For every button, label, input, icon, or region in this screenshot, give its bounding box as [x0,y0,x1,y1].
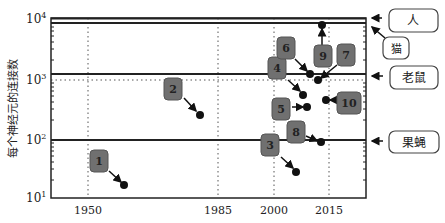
svg-text:老鼠: 老鼠 [402,71,426,85]
y-axis-label: 每个神经元的连接数 [6,59,20,158]
data-point [292,168,300,176]
point-labels: 1 2 3 4 5 6 7 8 9 10 [90,37,361,172]
svg-text:10: 10 [341,97,357,110]
point-label-8: 8 [287,121,305,143]
svg-text:101: 101 [26,190,46,205]
y-grid [51,80,366,140]
data-point [306,70,314,78]
svg-text:1985: 1985 [204,204,232,217]
data-point [318,21,326,29]
svg-text:2000: 2000 [260,204,288,217]
reference-annotations: 人 猫 老鼠 果蝇 [372,9,439,153]
data-points [120,21,330,189]
data-point [196,111,204,119]
point-label-5: 5 [272,98,290,120]
data-point [317,138,325,146]
svg-text:2015: 2015 [315,204,343,217]
point-label-7: 7 [337,44,355,66]
svg-text:104: 104 [26,11,46,26]
svg-text:1: 1 [95,155,103,168]
svg-text:人: 人 [407,14,419,28]
svg-text:6: 6 [282,42,290,55]
svg-text:9: 9 [319,50,327,63]
svg-text:猫: 猫 [391,43,402,56]
point-label-9: 9 [314,45,332,67]
data-point [120,181,128,189]
point-label-1: 1 [90,150,108,172]
chart: 101 102 103 104 1950 1985 2000 2015 每个神经… [0,0,445,223]
y-tick-labels: 101 102 103 104 [26,11,46,205]
svg-text:7: 7 [342,49,350,62]
point-label-6: 6 [277,37,295,59]
svg-text:1950: 1950 [74,204,102,217]
svg-text:3: 3 [266,139,274,152]
svg-text:103: 103 [26,72,46,87]
svg-text:4: 4 [273,62,281,75]
x-tick-labels: 1950 1985 2000 2015 [74,204,343,217]
data-point [299,91,307,99]
point-label-4: 4 [268,57,286,79]
data-point [322,96,330,104]
svg-text:8: 8 [292,126,300,139]
svg-text:5: 5 [277,103,285,116]
point-label-10: 10 [337,92,361,114]
svg-text:2: 2 [169,83,177,96]
point-arrows [109,29,337,182]
data-point [303,103,311,111]
svg-text:果蝇: 果蝇 [402,136,426,150]
point-label-2: 2 [164,78,182,100]
point-label-3: 3 [261,134,279,156]
svg-text:102: 102 [26,132,46,147]
data-point [314,76,322,84]
